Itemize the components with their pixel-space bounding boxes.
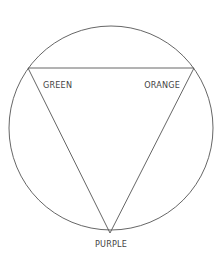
outer-circle <box>9 26 213 230</box>
color-diagram: GREEN ORANGE PURPLE <box>0 0 220 260</box>
label-orange: ORANGE <box>144 80 180 90</box>
secondary-colors-triangle <box>28 68 194 233</box>
label-green: GREEN <box>43 80 72 90</box>
label-purple: PURPLE <box>95 239 127 249</box>
